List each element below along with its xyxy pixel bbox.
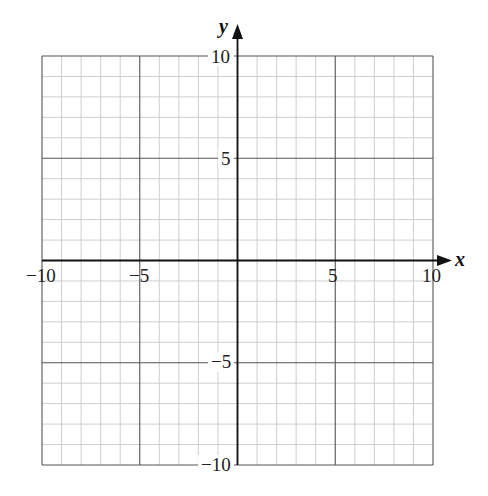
- y-tick-label-neg5: −5: [211, 351, 231, 372]
- y-tick-label-5: 5: [221, 148, 231, 169]
- x-axis-label: x: [454, 248, 465, 270]
- x-tick-label-5: 5: [328, 265, 338, 286]
- y-axis-arrow-icon: [232, 24, 243, 39]
- x-tick-label-neg5: −5: [129, 265, 149, 286]
- coordinate-plane: x y −10 −5 5 10 10 5 −5 −10: [0, 0, 488, 496]
- x-tick-label-10: 10: [422, 265, 441, 286]
- y-tick-label-10: 10: [211, 46, 230, 67]
- x-tick-label-neg10: −10: [26, 265, 56, 286]
- y-tick-label-neg10: −10: [201, 454, 231, 475]
- y-axis-label: y: [217, 15, 228, 38]
